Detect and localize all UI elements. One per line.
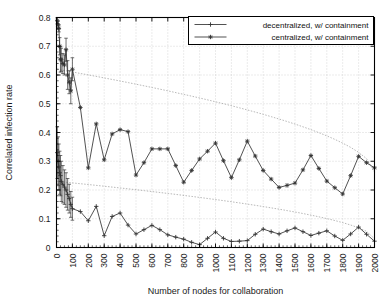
y-tick-label-2: 0.2 [39,185,51,195]
legend: decentralized, w/ containmentcentralized… [189,17,374,45]
x-tick-label-5: 500 [131,253,141,267]
correlated-infection-rate-chart: 00.10.20.30.40.50.60.70.8010020030040050… [0,0,387,298]
x-tick-label-2: 200 [84,253,94,267]
x-tick-label-19: 1900 [354,253,364,272]
legend-label: centralized, w/ containment [272,33,370,42]
x-tick-label-11: 1100 [227,253,237,272]
x-tick-label-10: 1000 [211,253,221,272]
axes: 00.10.20.30.40.50.60.70.8010020030040050… [39,13,380,273]
y-tick-label-8: 0.8 [39,13,51,23]
y-tick-label-5: 0.5 [39,99,51,109]
x-tick-label-1: 100 [68,253,78,267]
x-tick-label-18: 1800 [338,253,348,272]
x-tick-label-12: 1200 [243,253,253,272]
y-tick-label-4: 0.4 [39,128,51,138]
x-tick-label-17: 1700 [322,253,332,272]
y-tick-label-3: 0.3 [39,156,51,166]
x-tick-label-7: 700 [163,253,173,267]
x-axis-title: Number of nodes for collaboration [148,286,284,296]
x-tick-label-8: 800 [179,253,189,267]
x-tick-label-13: 1300 [258,253,268,272]
x-tick-label-3: 300 [99,253,109,267]
y-tick-label-0: 0 [46,243,51,253]
x-tick-label-15: 1500 [290,253,300,272]
y-axis-title: Correlated infection rate [4,84,14,180]
legend-label: decentralized, w/ containment [263,21,370,30]
x-tick-label-0: 0 [52,253,62,258]
chart-container: 00.10.20.30.40.50.60.70.8010020030040050… [0,0,387,298]
y-tick-label-1: 0.1 [39,214,51,224]
x-tick-label-9: 900 [195,253,205,267]
y-tick-label-7: 0.7 [39,41,51,51]
x-tick-label-14: 1400 [274,253,284,272]
x-tick-label-20: 2000 [370,253,380,272]
y-tick-label-6: 0.6 [39,70,51,80]
x-tick-label-4: 400 [115,253,125,267]
x-tick-label-6: 600 [147,253,157,267]
x-tick-label-16: 1600 [306,253,316,272]
grid-lines [57,18,375,248]
